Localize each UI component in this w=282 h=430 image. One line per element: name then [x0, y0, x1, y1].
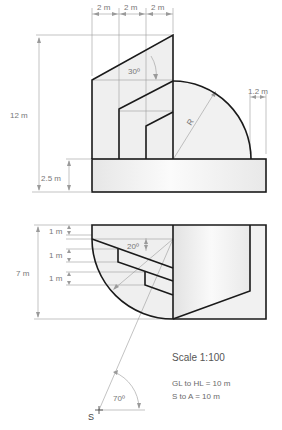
elevation-view: 2 m 2 m 2 m 12 m 2.5 m 1.2 m 30º R [10, 3, 268, 192]
gl-to-hl-note: GL to HL = 10 m [172, 379, 231, 388]
technical-drawing: 2 m 2 m 2 m 12 m 2.5 m 1.2 m 30º R [0, 0, 282, 430]
station-point-label: S [88, 412, 94, 422]
drawing-notes: Scale 1:100 GL to HL = 10 m S to A = 10 … [172, 352, 231, 401]
dim-base-height: 2.5 m [41, 174, 61, 183]
dim-width-1: 2 m [97, 3, 111, 12]
dim-offset-right: 1.2 m [248, 87, 268, 96]
dim-step-3: 1 m [49, 274, 63, 283]
dim-angle-30: 30º [128, 67, 140, 76]
dim-step-1: 1 m [49, 227, 63, 236]
dim-angle-20: 20º [127, 242, 139, 251]
scale-note: Scale 1:100 [172, 352, 225, 363]
quarter-dome-fill [173, 81, 251, 159]
base-block [92, 159, 266, 192]
s-to-a-note: S to A = 10 m [172, 392, 220, 401]
dim-angle-70: 70º [113, 394, 125, 403]
dim-total-depth: 7 m [16, 269, 30, 278]
dim-width-2: 2 m [124, 3, 138, 12]
dim-total-height: 12 m [10, 111, 28, 120]
plan-view: 7 m 1 m 1 m 1 m 20º 70º S [16, 225, 266, 422]
dim-step-2: 1 m [49, 251, 63, 260]
station-point-marker [95, 406, 103, 414]
dim-width-3: 2 m [151, 3, 165, 12]
tall-wall-fill [92, 35, 173, 159]
